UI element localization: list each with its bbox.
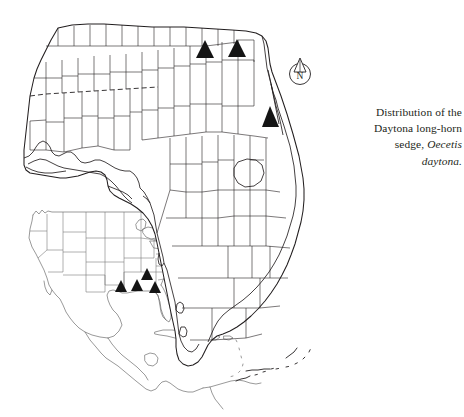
compass-label: N [297, 71, 304, 81]
figure-caption: Distribution of the Daytona long-horn se… [330, 104, 462, 169]
caption-line-1: Distribution of the [330, 104, 462, 120]
distribution-map-figure: N Distribution of the Daytona long-horn … [0, 0, 464, 417]
caption-species: daytona. [330, 153, 462, 169]
caption-genus: Oecetis [427, 138, 462, 150]
florida-county-map: N [0, 0, 340, 417]
caption-sedge-text: sedge, [395, 138, 427, 150]
florida-outline [24, 24, 304, 366]
map-stage: N [0, 0, 340, 417]
caption-line-3: sedge, Oecetis [330, 136, 462, 152]
north-arrow: N [290, 58, 311, 85]
florida-keys [236, 348, 311, 381]
caption-line-2: Daytona long-horn [330, 120, 462, 136]
